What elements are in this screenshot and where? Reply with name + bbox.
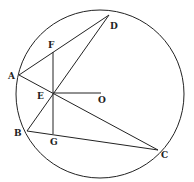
segment-BC (27, 131, 158, 150)
point-labels: A B C D E F G O (7, 21, 168, 160)
label-G: G (50, 137, 58, 147)
geometry-diagram: A B C D E F G O (0, 0, 194, 182)
label-O: O (98, 95, 106, 105)
segment-AD (19, 15, 109, 75)
label-E: E (37, 91, 44, 101)
label-A: A (7, 71, 16, 81)
label-C: C (161, 150, 168, 160)
label-D: D (110, 21, 118, 31)
label-B: B (14, 128, 22, 138)
segment-BD (27, 15, 109, 131)
label-F: F (48, 40, 55, 50)
